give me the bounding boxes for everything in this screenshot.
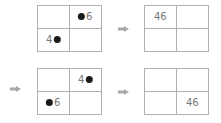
cell-bottom-left — [145, 29, 177, 52]
cell-bottom-left — [145, 92, 177, 115]
label: 4 — [78, 75, 84, 85]
label: 6 — [54, 98, 60, 108]
cell-top-right: 6 — [70, 6, 102, 29]
cell-top-right — [177, 69, 209, 92]
right-arrow-icon — [118, 26, 129, 32]
cell-bottom-right — [70, 29, 102, 52]
panel-3-grid: 4 6 — [37, 68, 102, 115]
label: 46 — [186, 98, 199, 108]
cell-bottom-right — [70, 92, 102, 115]
cell-bottom-right: 46 — [177, 92, 209, 115]
right-arrow-icon — [10, 86, 21, 92]
dot-icon — [53, 36, 60, 43]
cell-top-left — [38, 69, 70, 92]
cell-bottom-right — [177, 29, 209, 52]
label: 6 — [86, 12, 92, 22]
cell-top-right: 4 — [70, 69, 102, 92]
cell-bottom-left: 6 — [38, 92, 70, 115]
right-arrow-icon — [118, 89, 129, 95]
cell-top-right — [177, 6, 209, 29]
panel-4-grid: 46 — [144, 68, 209, 115]
dot-icon — [85, 76, 92, 83]
cell-bottom-left: 4 — [38, 29, 70, 52]
cell-top-left — [38, 6, 70, 29]
label: 46 — [154, 12, 167, 22]
cell-top-left: 46 — [145, 6, 177, 29]
label: 4 — [46, 35, 52, 45]
dot-icon — [78, 13, 85, 20]
panel-1-grid: 6 4 — [37, 5, 102, 52]
panel-2-grid: 46 — [144, 5, 209, 52]
dot-icon — [46, 99, 53, 106]
cell-top-left — [145, 69, 177, 92]
